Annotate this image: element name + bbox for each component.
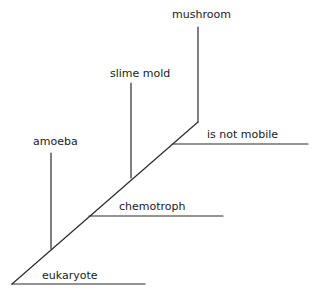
character-label-eukaryote: eukaryote [42, 269, 98, 282]
character-label-is-not-mobile: is not mobile [207, 128, 278, 141]
character-label-chemotroph: chemotroph [119, 200, 186, 213]
cladogram: eukaryote amoeba chemotroph slime mold i… [0, 0, 317, 297]
taxon-label-amoeba: amoeba [33, 135, 78, 148]
taxon-label-slime-mold: slime mold [110, 67, 170, 80]
taxon-label-mushroom: mushroom [172, 8, 231, 21]
